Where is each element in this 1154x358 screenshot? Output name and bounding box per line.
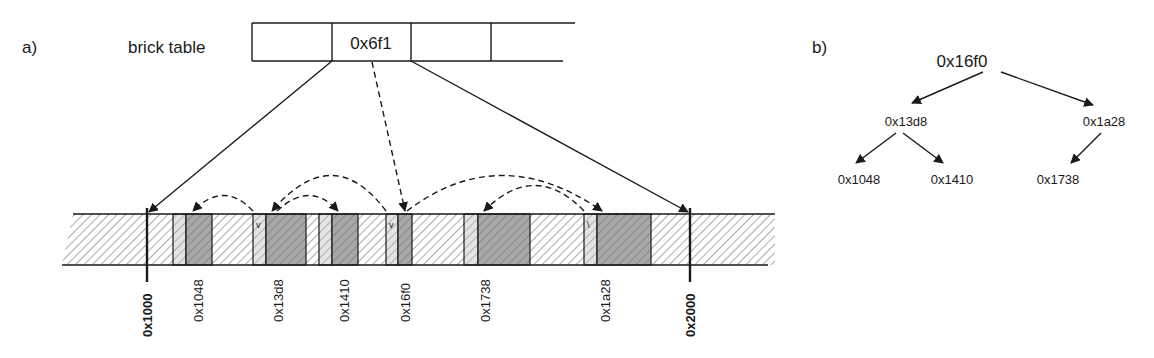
address-label: 0x1a28: [598, 279, 613, 322]
address-label: 0x1410: [337, 279, 352, 322]
address-label: 0x16f0: [398, 283, 413, 322]
memory-bar: v v \: [62, 208, 775, 282]
root-pointer-arrow: [372, 62, 405, 211]
panel-a-label: a): [22, 38, 37, 57]
memory-block-header: [319, 214, 332, 265]
mark-icon: v: [389, 220, 394, 230]
binary-tree: 0x16f0 0x13d8 0x1a28 0x1048 0x1410 0x173…: [838, 52, 1126, 187]
address-label: 0x13d8: [271, 279, 286, 322]
memory-node-0x1738: [478, 214, 530, 265]
tree-node-right: 0x1a28: [1083, 114, 1126, 129]
memory-block-header: [584, 214, 597, 265]
tree-node-left-left: 0x1048: [838, 172, 881, 187]
memory-block-header: [173, 214, 186, 265]
tree-node-right-left: 0x1738: [1037, 172, 1080, 187]
address-label-end: 0x2000: [683, 294, 698, 337]
memory-node-0x13d8: [266, 214, 306, 265]
memory-block-header: [464, 214, 478, 265]
address-labels: 0x1000 0x1048 0x13d8 0x1410 0x16f0 0x173…: [140, 279, 698, 337]
memory-node-0x16f0: [398, 214, 412, 265]
panel-b-label: b): [812, 38, 827, 57]
tree-link-arrows: [193, 176, 602, 212]
memory-node-0x1410: [332, 214, 358, 265]
tree-node-root: 0x16f0: [936, 52, 987, 71]
tree-node-left: 0x13d8: [885, 114, 928, 129]
address-label: 0x1048: [191, 279, 206, 322]
memory-node-0x1048: [186, 214, 212, 265]
brick-table: [252, 23, 575, 61]
memory-node-0x1a28: [597, 214, 651, 265]
brick-table-cell-value: 0x6f1: [350, 34, 392, 53]
mark-icon: v: [256, 220, 261, 230]
address-label: 0x1738: [478, 279, 493, 322]
brick-range-lines: [149, 61, 688, 212]
address-label-start: 0x1000: [140, 294, 155, 337]
brick-table-label: brick table: [128, 38, 205, 57]
brick-memory-diagram: a) brick table 0x6f1 v v \: [0, 0, 1154, 358]
tree-node-left-right: 0x1410: [931, 172, 974, 187]
